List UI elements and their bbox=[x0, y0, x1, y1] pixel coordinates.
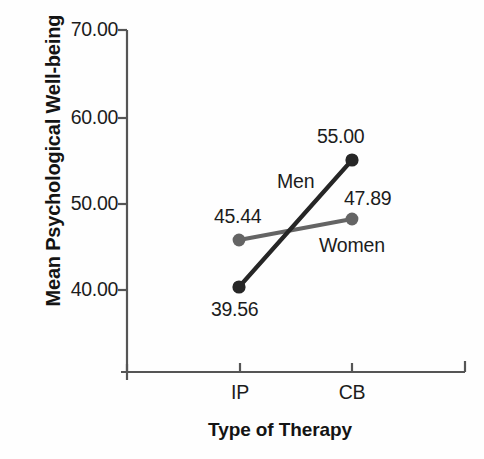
x-tick-label-ip: IP bbox=[210, 381, 270, 404]
x-tick-label-cb: CB bbox=[322, 381, 382, 404]
x-axis-title: Type of Therapy bbox=[160, 419, 400, 441]
data-point-women-ip bbox=[233, 234, 246, 247]
data-label-women-cb: 47.89 bbox=[344, 187, 391, 210]
data-label-men-ip: 39.56 bbox=[211, 298, 258, 321]
series-annotation-men: Men bbox=[277, 170, 314, 193]
data-point-women-cb bbox=[346, 213, 359, 226]
data-point-men-cb bbox=[345, 153, 358, 166]
series-annotation-women: Women bbox=[319, 234, 385, 257]
data-point-men-ip bbox=[232, 280, 245, 293]
data-label-men-cb: 55.00 bbox=[317, 125, 364, 148]
data-label-women-ip: 45.44 bbox=[214, 205, 261, 228]
interaction-line-chart: Mean Psychological Well-being 70.00 60.0… bbox=[0, 0, 484, 459]
